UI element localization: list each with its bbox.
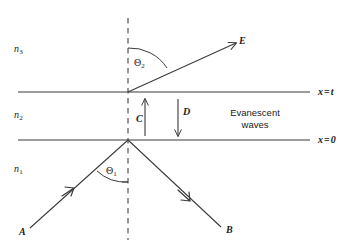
ray-label-b: B [226,225,233,235]
ray-label-e: E [239,36,246,46]
incident-ray-a-arrowhead [62,187,74,196]
medium-label-n3: n3 [14,44,23,56]
ray-label-d: D [183,107,190,117]
incident-ray-a [30,140,128,228]
reflected-ray-b [128,140,221,227]
boundary-label-x-equals-t: x=t [318,87,333,97]
figure-canvas [0,0,357,243]
medium-label-n1: n1 [14,164,23,176]
reflected-ray-b-arrowhead [178,190,190,201]
evanescent-wave-figure: n3 n2 n1 x=t x=0 Θ2 Θ1 E C D A B Evanesc… [0,0,357,243]
medium-label-n2: n2 [14,110,23,122]
boundary-label-x-equals-0: x=0 [318,135,336,145]
evanescent-waves-annotation: Evanescent waves [218,107,292,131]
angle-label-theta-2: Θ2 [134,58,145,70]
ray-label-c: C [136,114,143,124]
angle-label-theta-1: Θ1 [106,166,117,178]
ray-label-a: A [19,227,26,237]
